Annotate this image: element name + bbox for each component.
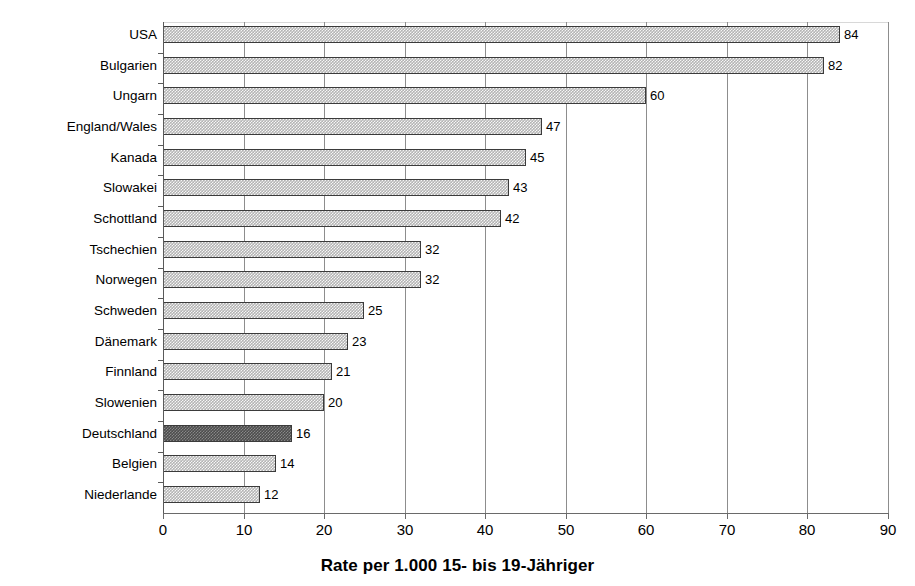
bar-value-label: 82: [828, 57, 842, 74]
category-label: Niederlande: [0, 486, 157, 503]
category-label: Finnland: [0, 363, 157, 380]
x-axis-tick-label: 50: [546, 521, 586, 538]
bar: [163, 179, 509, 196]
category-label: Kanada: [0, 149, 157, 166]
bar-value-label: 42: [505, 210, 519, 227]
x-axis-line: [163, 513, 889, 514]
bar: [163, 486, 260, 503]
x-axis-tick-label: 30: [385, 521, 425, 538]
category-label: Tschechien: [0, 241, 157, 258]
bar-value-label: 16: [296, 425, 310, 442]
x-axis-tick-label: 90: [868, 521, 908, 538]
bar: [163, 87, 646, 104]
x-axis-tick-label: 60: [626, 521, 666, 538]
category-label: Schweden: [0, 302, 157, 319]
bar-value-label: 60: [650, 87, 664, 104]
category-label: Schottland: [0, 210, 157, 227]
category-label: England/Wales: [0, 118, 157, 135]
bar: [163, 363, 332, 380]
bar-value-label: 47: [546, 118, 560, 135]
x-axis-title: Rate per 1.000 15- bis 19-Jähriger: [0, 556, 915, 576]
bar-value-label: 32: [425, 271, 439, 288]
gridline-60: [646, 22, 647, 513]
bar-value-label: 12: [264, 486, 278, 503]
category-label: Belgien: [0, 455, 157, 472]
bar: [163, 26, 840, 43]
bar: [163, 271, 421, 288]
bar: [163, 425, 292, 442]
x-axis-tick-40: [485, 513, 486, 519]
x-axis-tick-30: [405, 513, 406, 519]
bar: [163, 333, 348, 350]
category-label: Deutschland: [0, 425, 157, 442]
gridline-80: [807, 22, 808, 513]
x-axis-tick-80: [807, 513, 808, 519]
plot-area: 84826047454342323225232120161412: [163, 22, 888, 513]
x-axis-tick-label: 40: [465, 521, 505, 538]
bar: [163, 149, 526, 166]
bar-value-label: 20: [328, 394, 342, 411]
y-axis-line: [163, 22, 164, 514]
x-axis-tick-70: [727, 513, 728, 519]
bar: [163, 241, 421, 258]
bar: [163, 57, 824, 74]
bar: [163, 118, 542, 135]
x-axis-tick-label: 10: [224, 521, 264, 538]
x-axis-tick-label: 80: [787, 521, 827, 538]
bar-value-label: 32: [425, 241, 439, 258]
gridline-90: [888, 22, 889, 513]
chart-screenshot: 84826047454342323225232120161412 USABulg…: [0, 0, 915, 586]
category-label: Slowenien: [0, 394, 157, 411]
plot-top-border: [163, 22, 888, 23]
bar: [163, 210, 501, 227]
bar-value-label: 21: [336, 363, 350, 380]
category-label: Dänemark: [0, 333, 157, 350]
x-axis-tick-50: [566, 513, 567, 519]
bar-value-label: 23: [352, 333, 366, 350]
gridline-70: [727, 22, 728, 513]
x-axis-tick-20: [324, 513, 325, 519]
x-axis-tick-90: [888, 513, 889, 519]
bar-value-label: 43: [513, 179, 527, 196]
bar-value-label: 14: [280, 455, 294, 472]
x-axis-tick-0: [163, 513, 164, 519]
category-label: USA: [0, 26, 157, 43]
bar: [163, 394, 324, 411]
bar: [163, 455, 276, 472]
bar-value-label: 45: [530, 149, 544, 166]
x-axis-tick-label: 20: [304, 521, 344, 538]
x-axis-tick-label: 0: [143, 521, 183, 538]
bar: [163, 302, 364, 319]
category-label: Ungarn: [0, 87, 157, 104]
category-label: Norwegen: [0, 271, 157, 288]
category-label: Slowakei: [0, 179, 157, 196]
x-axis-tick-label: 70: [707, 521, 747, 538]
bar-value-label: 25: [368, 302, 382, 319]
bar-value-label: 84: [844, 26, 858, 43]
category-label: Bulgarien: [0, 57, 157, 74]
x-axis-tick-10: [244, 513, 245, 519]
x-axis-tick-60: [646, 513, 647, 519]
